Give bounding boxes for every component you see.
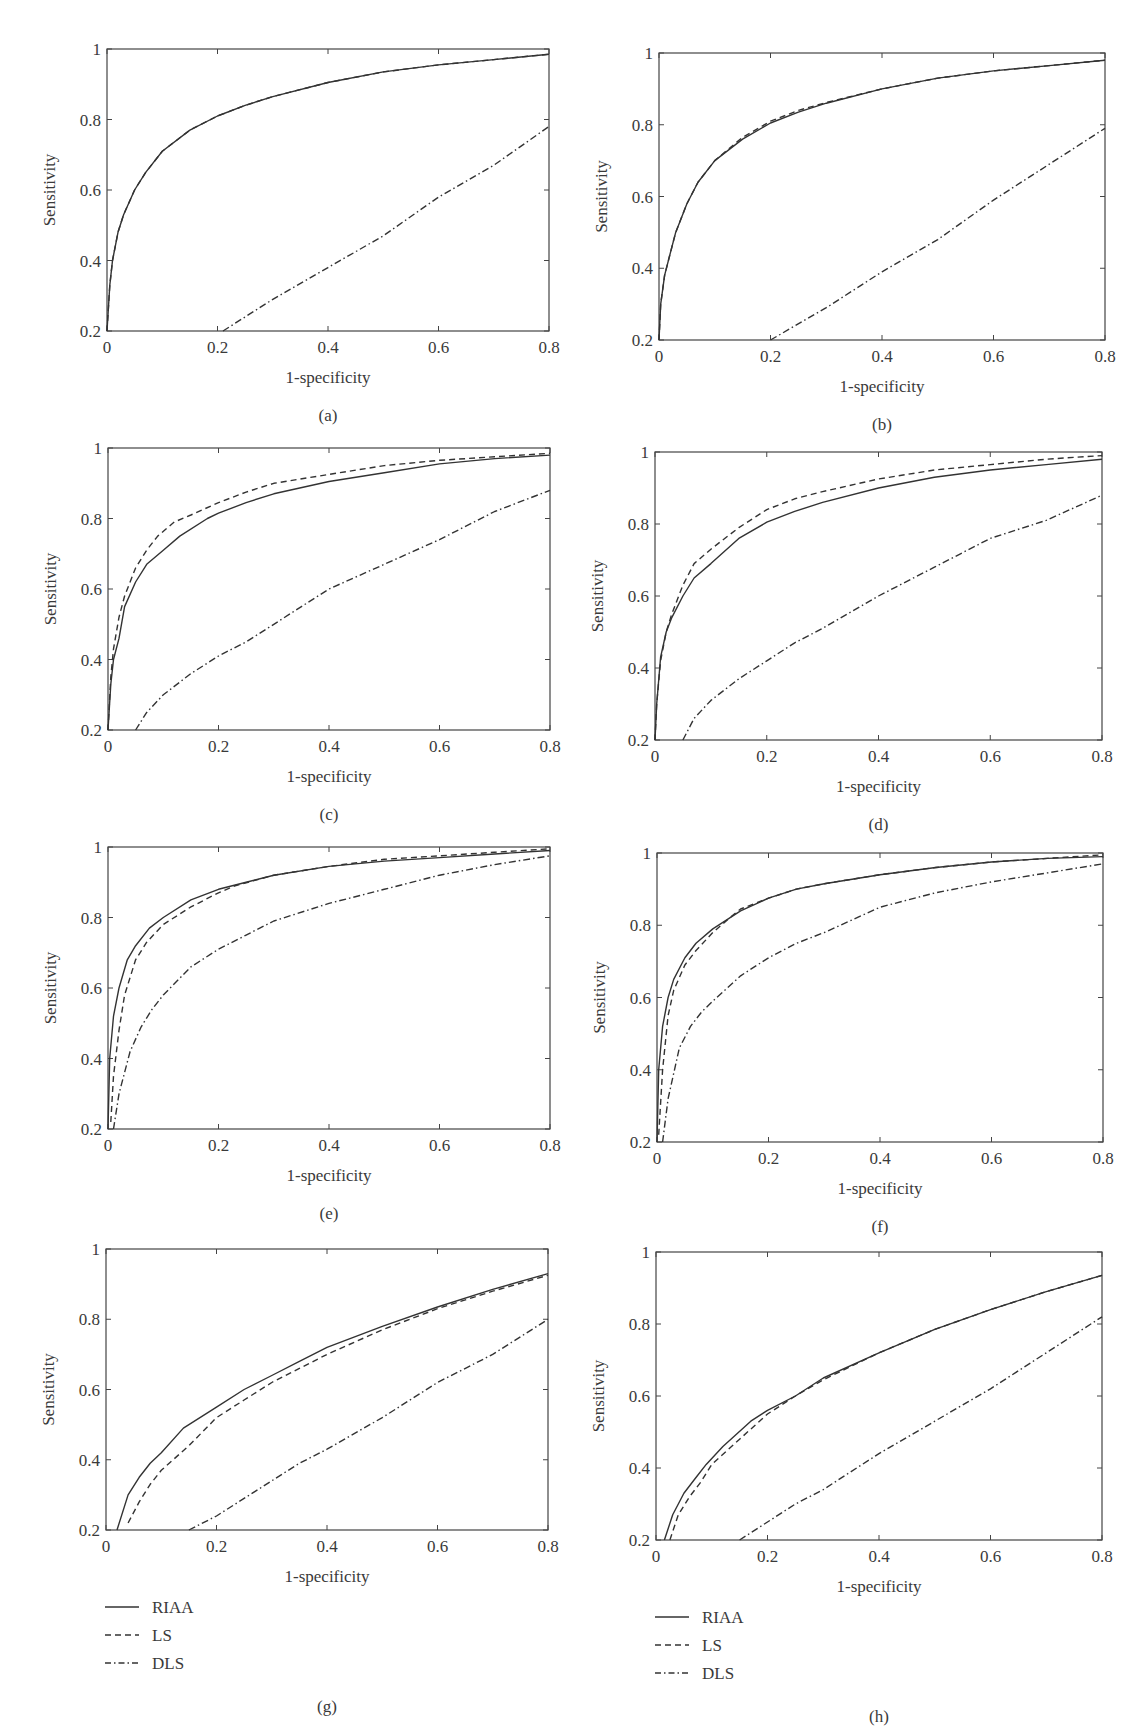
x-tick-label: 0.4 bbox=[317, 338, 339, 357]
x-tick-label: 0 bbox=[104, 737, 113, 756]
series-dls bbox=[136, 490, 550, 730]
x-tick-label: 0.8 bbox=[1094, 347, 1115, 366]
x-tick-label: 0 bbox=[651, 747, 660, 766]
roc-figure: 00.20.40.60.80.20.40.60.811-specificityS… bbox=[0, 0, 1141, 1730]
series-dls bbox=[189, 1319, 548, 1530]
y-tick-label: 0.4 bbox=[630, 1061, 652, 1080]
panel-caption: (e) bbox=[320, 1204, 339, 1223]
legend: RIAALSDLS bbox=[105, 1598, 194, 1673]
panel-d: 00.20.40.60.80.20.40.60.811-specificityS… bbox=[588, 443, 1113, 834]
legend: RIAALSDLS bbox=[655, 1608, 744, 1683]
y-axis-label: Sensitivity bbox=[589, 1359, 608, 1432]
x-tick-label: 0.8 bbox=[539, 737, 560, 756]
y-tick-label: 0.6 bbox=[630, 989, 651, 1008]
y-tick-label: 0.2 bbox=[630, 1133, 651, 1152]
series-ls bbox=[111, 849, 550, 1122]
x-tick-label: 0.2 bbox=[757, 1547, 778, 1566]
y-tick-label: 0.6 bbox=[81, 979, 102, 998]
x-axis-label: 1-specificity bbox=[838, 1179, 923, 1198]
panel-caption: (c) bbox=[320, 805, 339, 824]
x-tick-label: 0.2 bbox=[207, 338, 228, 357]
series-riaa bbox=[107, 54, 549, 331]
y-axis-label: Sensitivity bbox=[592, 160, 611, 233]
series-ls bbox=[659, 60, 1105, 340]
series-ls bbox=[107, 54, 549, 331]
y-axis-label: Sensitivity bbox=[40, 153, 59, 226]
series-riaa bbox=[655, 459, 1102, 740]
x-tick-label: 0.6 bbox=[429, 1136, 450, 1155]
y-tick-label: 1 bbox=[94, 439, 103, 458]
x-tick-label: 0.6 bbox=[429, 737, 450, 756]
y-tick-label: 0.8 bbox=[629, 1315, 650, 1334]
panel-caption: (h) bbox=[869, 1707, 889, 1726]
y-tick-label: 0.4 bbox=[632, 259, 654, 278]
panel-f: 00.20.40.60.80.20.40.60.811-specificityS… bbox=[590, 844, 1114, 1236]
y-tick-label: 0.2 bbox=[628, 731, 649, 750]
series-ls bbox=[670, 1275, 1102, 1540]
x-tick-label: 0.8 bbox=[539, 1136, 560, 1155]
series-ls bbox=[655, 456, 1102, 740]
x-tick-label: 0 bbox=[104, 1136, 113, 1155]
x-tick-label: 0.6 bbox=[428, 338, 449, 357]
series-riaa bbox=[664, 1275, 1102, 1540]
legend-label-dls: DLS bbox=[152, 1654, 184, 1673]
y-axis-label: Sensitivity bbox=[588, 559, 607, 632]
y-tick-label: 0.8 bbox=[81, 510, 102, 529]
x-tick-label: 0.2 bbox=[208, 1136, 229, 1155]
x-tick-label: 0.8 bbox=[537, 1537, 558, 1556]
x-tick-label: 0.2 bbox=[208, 737, 229, 756]
y-tick-label: 0.8 bbox=[632, 116, 653, 135]
x-axis-label: 1-specificity bbox=[837, 1577, 922, 1596]
y-tick-label: 0.8 bbox=[628, 515, 649, 534]
plot-frame bbox=[108, 448, 550, 730]
x-tick-label: 0.2 bbox=[206, 1537, 227, 1556]
panel-caption: (g) bbox=[317, 1697, 337, 1716]
series-dls bbox=[223, 127, 549, 332]
y-tick-label: 1 bbox=[643, 844, 652, 863]
y-tick-label: 0.2 bbox=[79, 1521, 100, 1540]
x-tick-label: 0.8 bbox=[1091, 1547, 1112, 1566]
x-tick-label: 0.8 bbox=[538, 338, 559, 357]
y-axis-label: Sensitivity bbox=[39, 1353, 58, 1426]
y-tick-label: 0.8 bbox=[79, 1310, 100, 1329]
x-tick-label: 0.6 bbox=[980, 1547, 1001, 1566]
x-axis-label: 1-specificity bbox=[287, 767, 372, 786]
panel-caption: (d) bbox=[869, 815, 889, 834]
y-tick-label: 0.2 bbox=[629, 1531, 650, 1550]
panel-caption: (f) bbox=[872, 1217, 889, 1236]
x-axis-label: 1-specificity bbox=[286, 368, 371, 387]
y-tick-label: 1 bbox=[94, 838, 103, 857]
x-tick-label: 0.4 bbox=[318, 1136, 340, 1155]
y-tick-label: 0.2 bbox=[632, 331, 653, 350]
y-tick-label: 0.8 bbox=[81, 909, 102, 928]
panel-caption: (a) bbox=[319, 406, 338, 425]
y-tick-label: 1 bbox=[642, 1243, 651, 1262]
legend-label-dls: DLS bbox=[702, 1664, 734, 1683]
series-riaa bbox=[108, 851, 550, 1130]
y-tick-label: 0.2 bbox=[80, 322, 101, 341]
y-tick-label: 0.6 bbox=[79, 1381, 100, 1400]
y-tick-label: 0.4 bbox=[79, 1451, 101, 1470]
x-axis-label: 1-specificity bbox=[840, 377, 925, 396]
y-tick-label: 1 bbox=[641, 443, 650, 462]
series-dls bbox=[114, 856, 551, 1129]
y-axis-label: Sensitivity bbox=[590, 961, 609, 1034]
y-tick-label: 0.4 bbox=[81, 651, 103, 670]
x-tick-label: 0.4 bbox=[871, 347, 893, 366]
series-ls bbox=[128, 1275, 548, 1523]
series-dls bbox=[771, 128, 1106, 340]
y-tick-label: 0.6 bbox=[80, 181, 101, 200]
y-axis-label: Sensitivity bbox=[41, 951, 60, 1024]
y-tick-label: 0.8 bbox=[630, 916, 651, 935]
x-tick-label: 0.4 bbox=[318, 737, 340, 756]
legend-label-ls: LS bbox=[702, 1636, 722, 1655]
panel-caption: (b) bbox=[872, 415, 892, 434]
plot-frame bbox=[108, 847, 550, 1129]
y-tick-label: 0.6 bbox=[81, 580, 102, 599]
y-tick-label: 1 bbox=[92, 1240, 101, 1259]
x-axis-label: 1-specificity bbox=[285, 1567, 370, 1586]
y-tick-label: 1 bbox=[93, 40, 102, 59]
series-ls bbox=[659, 855, 1103, 1135]
plot-frame bbox=[107, 49, 549, 331]
y-axis-label: Sensitivity bbox=[41, 552, 60, 625]
